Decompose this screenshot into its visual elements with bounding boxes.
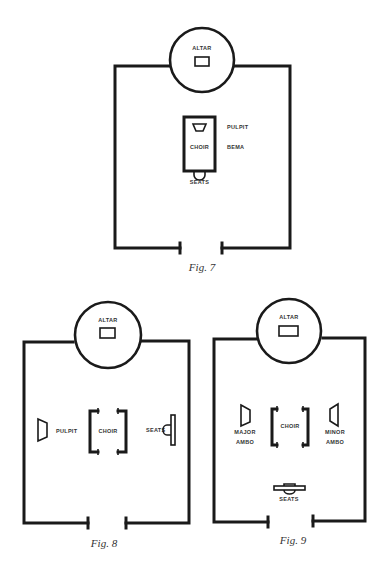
fig8-pulpit-icon [38, 419, 47, 441]
fig7-caption: Fig. 7 [188, 261, 216, 273]
fig9-apse [257, 299, 321, 363]
fig9-choir-label: CHOIR [280, 423, 299, 429]
fig9-choir-left-bracket [272, 409, 277, 445]
fig9-altar-label: ALTAR [279, 314, 298, 320]
fig9-minor-ambo-label-1: MINOR [325, 429, 345, 435]
fig8-apse [75, 302, 141, 368]
fig9-minor-ambo-label-2: AMBO [326, 439, 344, 445]
fig8-choir-label: CHOIR [98, 428, 117, 434]
fig9-caption: Fig. 9 [279, 534, 307, 546]
fig7-pulpit-icon [193, 124, 206, 131]
church-plans-figure: ALTAR CHOIR SEATS PULPIT BEMA Fig. 7 ALT… [0, 0, 388, 572]
fig8-choir-right-bracket [118, 411, 126, 452]
figure-9: ALTAR MAJOR AMBO CHOIR MINOR AMBO SEATS … [214, 299, 365, 546]
figure-8: ALTAR PULPIT CHOIR SEATS Fig. 8 [24, 302, 189, 549]
fig7-nave-walls [115, 66, 290, 248]
fig7-seats-label: SEATS [190, 179, 209, 185]
fig9-major-ambo-label-2: AMBO [236, 439, 254, 445]
fig9-seats-bench-icon [274, 486, 305, 490]
fig7-choir-label: CHOIR [190, 144, 209, 150]
fig8-pulpit-label: PULPIT [56, 428, 78, 434]
fig7-bema-label: BEMA [227, 144, 244, 150]
fig9-minor-ambo-icon [330, 404, 338, 426]
fig8-choir-left-bracket [90, 411, 98, 452]
fig8-caption: Fig. 8 [90, 537, 118, 549]
fig9-major-ambo-label-1: MAJOR [234, 429, 255, 435]
fig7-altar-label: ALTAR [192, 45, 211, 51]
fig9-seats-label: SEATS [279, 496, 298, 502]
fig8-altar-label: ALTAR [98, 317, 117, 323]
fig7-apse [170, 28, 234, 92]
fig7-pulpit-label: PULPIT [227, 124, 249, 130]
figure-7: ALTAR CHOIR SEATS PULPIT BEMA Fig. 7 [115, 28, 290, 273]
fig9-choir-right-bracket [303, 409, 308, 445]
fig9-major-ambo-icon [241, 405, 250, 426]
fig8-seats-bench-icon [171, 415, 175, 445]
